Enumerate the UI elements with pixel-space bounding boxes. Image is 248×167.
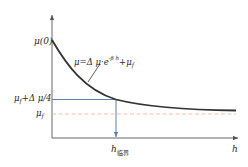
x-axis-label: h: [232, 145, 238, 154]
asymptote-subscript: f: [42, 112, 44, 119]
mu-zero-label: μ(0): [34, 37, 53, 46]
decay-diagram: [0, 0, 248, 167]
formula-exponent: -β h: [109, 55, 119, 61]
quarter-level-label: μf+Δ μ/4: [14, 94, 52, 104]
mu-zero-text: μ(0): [34, 36, 53, 46]
critical-h-label: h临界: [111, 145, 129, 156]
quarter-level-rest: +Δ μ/4: [22, 93, 52, 103]
formula-rhs: +μ: [119, 57, 132, 67]
critical-h-subscript: 临界: [117, 149, 129, 156]
formula-lhs: μ=Δ μ·e: [74, 57, 109, 67]
x-axis-label-text: h: [232, 144, 238, 154]
asymptote-label: μf: [36, 109, 44, 119]
curve-formula-label: μ=Δ μ·e-β h+μf: [74, 56, 134, 68]
formula-rhs-subscript: f: [132, 61, 134, 68]
